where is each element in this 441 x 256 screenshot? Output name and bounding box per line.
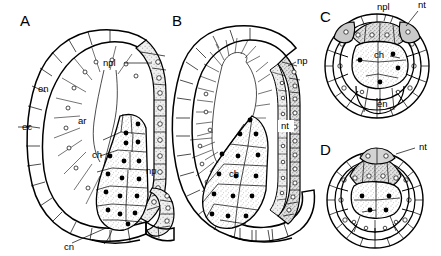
panel-d-label-nt: nt bbox=[419, 141, 427, 152]
panel-c-endoderm-nucleus-2 bbox=[396, 90, 400, 94]
panel-a-label-ec: ec bbox=[22, 121, 32, 132]
panel-a-label-en: en bbox=[38, 83, 49, 94]
panel-b-label-nt: nt bbox=[281, 120, 289, 131]
panel-c-fold-nucleus-right bbox=[406, 30, 410, 34]
panel-c-label-npl: npl bbox=[377, 1, 390, 12]
panel-b-label-ch: ch bbox=[229, 168, 239, 179]
panel-c-fold-nucleus-left bbox=[344, 30, 348, 34]
panel-c-letter: C bbox=[320, 8, 331, 25]
panel-c-label-ch: ch bbox=[374, 49, 384, 60]
panel-a-label-npl: npl bbox=[103, 57, 116, 68]
panel-c-label-en: en bbox=[377, 98, 388, 109]
panel-c-label-nt: nt bbox=[418, 0, 426, 10]
panel-d-fold-nucleus-left bbox=[366, 154, 370, 158]
panel-a-letter: A bbox=[20, 12, 30, 29]
panel-a-label-cn: cn bbox=[64, 241, 74, 252]
panel-a-label-np: np bbox=[146, 165, 157, 176]
panel-a-label-ar: ar bbox=[78, 115, 86, 126]
figure-canvas: A npl en ec ar ch np cn bbox=[0, 0, 441, 256]
panel-a-label-ch: ch bbox=[92, 149, 102, 160]
embryo-development-figure: A npl en ec ar ch np cn bbox=[0, 0, 441, 256]
panel-c-endoderm-nucleus-1 bbox=[360, 90, 364, 94]
panel-d-fold-nucleus-right bbox=[384, 154, 388, 158]
panel-d-letter: D bbox=[320, 141, 331, 158]
panel-b-letter: B bbox=[172, 12, 182, 29]
panel-b-label-np: np bbox=[297, 55, 308, 66]
